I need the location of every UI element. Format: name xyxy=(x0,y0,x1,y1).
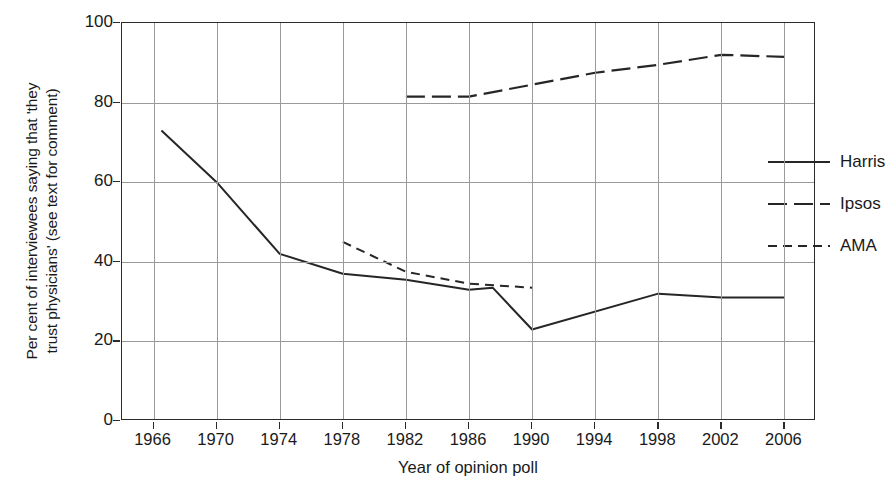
gridline-vertical xyxy=(784,23,785,419)
legend-label: AMA xyxy=(830,236,877,256)
x-axis-title: Year of opinion poll xyxy=(121,458,815,477)
legend-item-harris[interactable]: Harris xyxy=(768,141,890,183)
legend-swatch-ama-icon xyxy=(768,239,830,253)
legend-item-ipsos[interactable]: Ipsos xyxy=(768,183,890,225)
y-axis-tick-mark xyxy=(113,22,120,23)
y-axis-title-line-1: Per cent of interviewees saying that 'th… xyxy=(22,82,42,359)
x-axis-tick-mark xyxy=(657,422,658,429)
y-axis-tick-mark xyxy=(113,420,120,421)
y-axis-tick-label: 100 xyxy=(73,12,113,32)
x-axis-tick-label: 1978 xyxy=(323,430,360,449)
gridline-vertical xyxy=(532,23,533,419)
x-axis-tick-label: 1966 xyxy=(134,430,171,449)
x-axis-tick-label: 1974 xyxy=(260,430,297,449)
x-axis-tick-label: 1994 xyxy=(576,430,613,449)
x-axis-tick-mark xyxy=(720,422,721,429)
legend-label: Ipsos xyxy=(830,194,881,214)
gridline-horizontal xyxy=(122,103,814,104)
gridline-vertical xyxy=(343,23,344,419)
x-axis-tick-mark xyxy=(405,422,406,429)
y-axis-tick-mark xyxy=(113,181,120,182)
series-line-harris xyxy=(161,130,784,329)
y-axis-tick-label: 60 xyxy=(73,171,113,191)
y-axis-tick-label: 20 xyxy=(73,330,113,350)
x-axis-tick-label: 1990 xyxy=(513,430,550,449)
x-axis-tick-mark xyxy=(531,422,532,429)
x-axis-tick-mark xyxy=(468,422,469,429)
legend-swatch-harris-icon xyxy=(768,155,830,169)
legend-swatch-ipsos-icon xyxy=(768,197,830,211)
gridline-vertical xyxy=(658,23,659,419)
y-axis-title: Per cent of interviewees saying that 'th… xyxy=(19,11,65,431)
y-axis-tick-label: 40 xyxy=(73,251,113,271)
gridline-horizontal xyxy=(122,262,814,263)
x-axis-tick-label: 1998 xyxy=(639,430,676,449)
gridline-vertical xyxy=(721,23,722,419)
gridline-horizontal xyxy=(122,182,814,183)
series-line-ama xyxy=(343,242,532,288)
gridline-vertical xyxy=(595,23,596,419)
gridline-horizontal xyxy=(122,341,814,342)
x-axis-tick-mark xyxy=(279,422,280,429)
legend-item-ama[interactable]: AMA xyxy=(768,225,890,267)
gridline-vertical xyxy=(154,23,155,419)
gridline-vertical xyxy=(469,23,470,419)
gridline-vertical xyxy=(280,23,281,419)
y-axis-tick-mark xyxy=(113,102,120,103)
plot-area: HarrisIpsosAMA xyxy=(121,22,815,420)
x-axis-tick-label: 1986 xyxy=(450,430,487,449)
legend-label: Harris xyxy=(830,152,885,172)
x-axis-tick-label: 1982 xyxy=(387,430,424,449)
gridline-vertical xyxy=(217,23,218,419)
x-axis-tick-mark xyxy=(216,422,217,429)
y-axis-tick-mark xyxy=(113,340,120,341)
x-axis-tick-labels: 1966197019741978198219861990199419982002… xyxy=(121,428,815,450)
y-axis-tick-labels: 020406080100 xyxy=(73,22,113,420)
x-axis-tick-label: 2002 xyxy=(702,430,739,449)
chart-legend: HarrisIpsosAMA xyxy=(768,141,890,267)
y-axis-tick-mark xyxy=(113,261,120,262)
x-axis-tick-label: 2006 xyxy=(765,430,802,449)
x-axis-tick-mark xyxy=(342,422,343,429)
x-axis-tick-mark xyxy=(783,422,784,429)
y-axis-tick-label: 80 xyxy=(73,92,113,112)
gridline-vertical xyxy=(406,23,407,419)
x-axis-tick-mark xyxy=(153,422,154,429)
x-axis-tick-mark xyxy=(594,422,595,429)
y-axis-title-line-2: trust physicians' (see text for comment) xyxy=(42,88,62,353)
y-axis-tick-label: 0 xyxy=(73,410,113,430)
x-axis-tick-label: 1970 xyxy=(197,430,234,449)
